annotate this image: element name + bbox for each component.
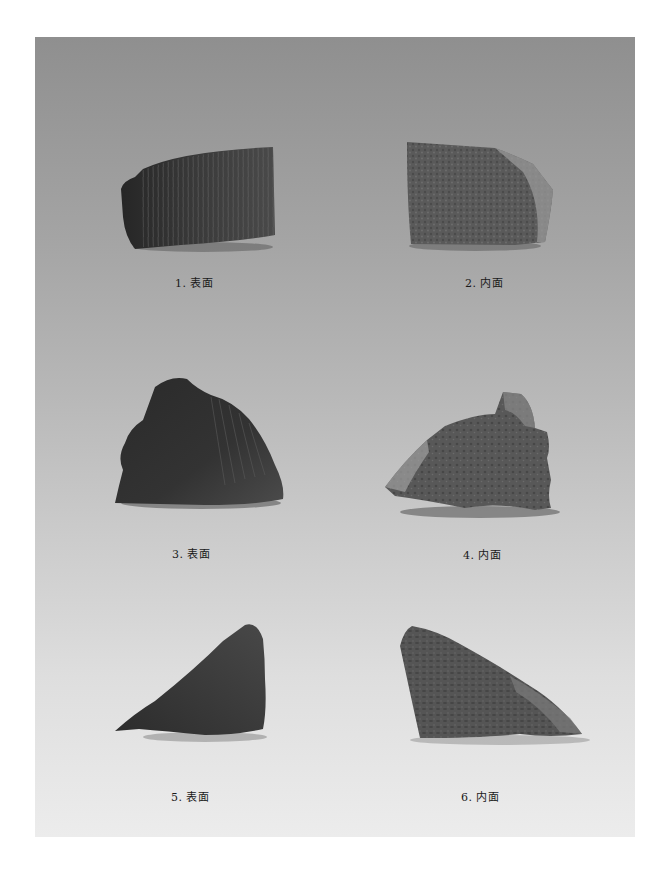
- sherd-photo-5: [115, 619, 275, 744]
- photo-plate: 1. 表面 2. 内面 3. 表面: [35, 37, 635, 837]
- figure-caption-4: 4. 内面: [463, 546, 502, 562]
- figure-caption-2: 2. 内面: [465, 274, 504, 290]
- figure-caption-5: 5. 表面: [171, 788, 210, 804]
- sherd-photo-4: [385, 392, 565, 522]
- sherd-photo-2: [405, 142, 555, 252]
- sherd-photo-3: [115, 375, 290, 510]
- sherd-photo-6: [400, 622, 600, 747]
- figure-caption-6: 6. 内面: [461, 788, 500, 804]
- sherd-photo-1: [121, 137, 281, 252]
- figure-caption-3: 3. 表面: [172, 545, 211, 561]
- figure-caption-1: 1. 表面: [175, 274, 214, 290]
